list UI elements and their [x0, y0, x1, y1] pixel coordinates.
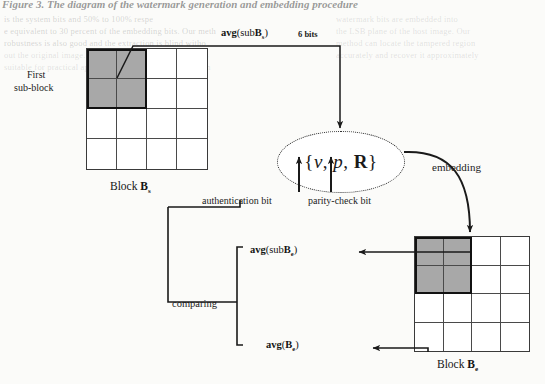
- first-sub-block-label-line2: sub-block: [14, 82, 53, 93]
- bleed-right-line-4: accurately and recover it approximately: [336, 50, 479, 60]
- embedding-label: embedding: [432, 161, 481, 173]
- grid-cell: [444, 237, 473, 266]
- comparing-bracket: [237, 247, 243, 345]
- grid-cell: [501, 294, 530, 323]
- left-block-label-subscript: s: [148, 187, 151, 195]
- grid-cell: [177, 139, 207, 169]
- avg-be-formula: avg(Be): [266, 339, 299, 352]
- grid-cell: [444, 323, 473, 352]
- grid-cell: [177, 109, 207, 139]
- bleed-right-line-2: the LSB plane of the host image. Our: [336, 26, 470, 36]
- bleed-line-3: robustness is also good and the extracti…: [4, 38, 206, 48]
- grid-cell: [177, 79, 207, 109]
- grid-cell: [117, 79, 147, 109]
- bleed-line-2: e equivalent to 30 percent of the embedd…: [4, 26, 216, 36]
- avg-fn-sub-be: avg: [250, 244, 266, 255]
- avg-post-be: ): [295, 339, 299, 350]
- parity-check-bit-label: parity-check bit: [308, 195, 371, 206]
- grid-cell: [147, 49, 177, 79]
- grid-cell: [472, 237, 501, 266]
- bleed-right-line-1: watermark bits are embedded into: [336, 14, 458, 24]
- figure-page: is the system bits and 50% to 100% respe…: [0, 0, 545, 384]
- right-block-label-symbol: B: [467, 358, 475, 370]
- right-block-label-prefix: Block: [437, 358, 467, 370]
- grid-cell: [501, 323, 530, 352]
- set-sep-2: ,: [343, 151, 354, 172]
- grid-cell: [87, 109, 117, 139]
- grid-cell: [87, 49, 117, 79]
- grid-cell: [415, 323, 444, 352]
- set-sep-1: ,: [323, 151, 334, 172]
- symbol-p: p: [333, 151, 343, 172]
- avg-sub-be-formula: avg(subBe): [250, 244, 297, 257]
- watermark-set-text: {v, p, R}: [304, 151, 377, 173]
- avg-sym-sub-be: B: [284, 244, 291, 255]
- grid-cell: [87, 139, 117, 169]
- symbol-R: R: [354, 151, 368, 172]
- avg-pre-sub-be: (sub: [266, 244, 284, 255]
- avg-post-sub-be: ): [294, 244, 298, 255]
- grid-cell: [177, 49, 207, 79]
- grid-cell: [147, 139, 177, 169]
- left-block-label-symbol: B: [140, 180, 148, 192]
- left-block-cells: [87, 49, 207, 169]
- avg-fn-be: avg: [266, 339, 282, 350]
- right-block-label-subscript: e: [475, 365, 478, 373]
- left-block-label: Block Bs: [110, 180, 151, 195]
- six-bits-label: 6 bits: [298, 29, 318, 39]
- left-block-grid: [86, 48, 208, 170]
- avg-arg-post-top: ): [264, 27, 268, 38]
- comparing-label: comparing: [172, 298, 217, 309]
- top-avg-sub-bs-formula: avg(subBs): [221, 27, 268, 40]
- grid-cell: [472, 266, 501, 295]
- grid-cell: [147, 79, 177, 109]
- grid-cell: [415, 294, 444, 323]
- authentication-bit-label: authentication bit: [202, 195, 272, 206]
- grid-cell: [472, 294, 501, 323]
- grid-cell: [415, 237, 444, 266]
- grid-cell: [147, 109, 177, 139]
- bleed-right-line-3: method can locate the tampered region: [336, 38, 475, 48]
- set-open-brace: {: [304, 151, 314, 172]
- grid-cell: [117, 109, 147, 139]
- first-sub-block-label-line1: First: [27, 69, 45, 80]
- right-block-label: Block Be: [437, 358, 478, 373]
- set-close-brace: }: [368, 151, 378, 172]
- grid-cell: [501, 237, 530, 266]
- grid-cell: [444, 294, 473, 323]
- grid-cell: [472, 323, 501, 352]
- grid-cell: [444, 266, 473, 295]
- grid-cell: [87, 79, 117, 109]
- bleed-line-1: is the system bits and 50% to 100% respe: [4, 14, 153, 24]
- grid-cell: [117, 139, 147, 169]
- right-block-cells: [415, 237, 529, 351]
- figure-caption: Figure 3. The diagram of the watermark g…: [2, 0, 358, 10]
- avg-fn-top: avg: [221, 27, 237, 38]
- comparing-leader: [168, 207, 237, 302]
- grid-cell: [415, 266, 444, 295]
- right-block-grid: [414, 236, 530, 352]
- symbol-v: v: [314, 151, 323, 172]
- avg-arg-pre-top: (sub: [237, 27, 255, 38]
- watermark-set-node: {v, p, R}: [277, 131, 405, 193]
- left-block-label-prefix: Block: [110, 180, 140, 192]
- grid-cell: [501, 266, 530, 295]
- grid-cell: [117, 49, 147, 79]
- avg-arg-sym-top: B: [255, 27, 262, 38]
